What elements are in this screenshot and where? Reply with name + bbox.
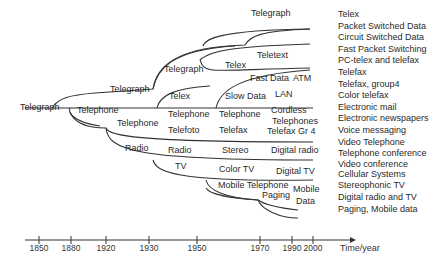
branch-label-telefax: Telefax xyxy=(219,125,248,135)
branch-label-slow-data: Slow Data xyxy=(225,91,266,101)
service-item: Voice messaging xyxy=(338,125,429,137)
branch-label-stereo: Stereo xyxy=(222,145,249,155)
branch-label-atm: ATM xyxy=(293,73,311,83)
branch-label-telefoto: Telefoto xyxy=(168,125,200,135)
service-item: Packet Switched Data xyxy=(338,21,429,33)
branch-label-tv: TV xyxy=(175,161,187,171)
branch-label-digital-radio: Digital radio xyxy=(271,145,319,155)
branch-label-telex-1950: Telex xyxy=(169,91,190,101)
branch-label-cordless: Cordless xyxy=(271,105,307,115)
branch-label-telephone-1970: Telephone xyxy=(219,109,261,119)
service-item: Circuit Switched Data xyxy=(338,32,429,44)
branch-label-lan: LAN xyxy=(275,89,293,99)
service-item: Paging, Mobile data xyxy=(338,204,429,216)
branch-label-telephone-1920: Telephone xyxy=(117,118,159,128)
branch-label-telefax-gr4: Telefax Gr 4 xyxy=(267,126,316,136)
branch-label-telegraph-1930: Telegraph xyxy=(164,64,204,74)
branch-label-radio-1920: Radio xyxy=(125,143,149,153)
tick-label: 2000 xyxy=(304,243,323,253)
service-item: Fast Packet Switching xyxy=(338,44,429,56)
branch-label-mobile-telephone: Mobile Telephone xyxy=(218,180,288,190)
branch-label-telephones: Telephones xyxy=(272,116,318,126)
service-item: Telephone conference xyxy=(338,148,429,160)
tick-label: 1990 xyxy=(283,243,302,253)
branch-label-color-tv: Color TV xyxy=(219,164,254,174)
tick-label: 1970 xyxy=(251,243,270,253)
branch-label-paging: Paging xyxy=(262,190,290,200)
service-item: PC-telex and telefax xyxy=(338,55,429,67)
branch-label-telex-1970: Telex xyxy=(225,60,246,70)
service-item: Color telefax xyxy=(338,90,429,102)
service-item: Electronic mail xyxy=(338,102,429,114)
service-item: Digital radio and TV xyxy=(338,192,429,204)
service-item: Cellular Systems xyxy=(338,169,429,181)
tick-label: 1950 xyxy=(188,243,207,253)
service-item: Telefax xyxy=(338,67,429,79)
root-label: Telegraph xyxy=(20,102,60,112)
service-item: Telex xyxy=(338,9,429,21)
service-item: Telefax, group4 xyxy=(338,79,429,91)
service-item: Electronic newspapers xyxy=(338,113,429,125)
axis-title: Time/year xyxy=(340,243,380,253)
branch-label-telephone-1950: Telephone xyxy=(168,109,210,119)
branch-label-data: Data xyxy=(296,196,315,206)
service-item: Video Telephone xyxy=(338,137,429,149)
branch-label-teletext: Teletext xyxy=(257,50,288,60)
service-item: Video conference xyxy=(338,160,429,169)
branch-label-telegraph-1970: Telegraph xyxy=(251,8,291,18)
service-item: Stereophonic TV xyxy=(338,180,429,192)
tick-label: 1850 xyxy=(30,243,49,253)
service-list: Telex Packet Switched Data Circuit Switc… xyxy=(338,9,429,215)
tick-label: 1930 xyxy=(140,243,159,253)
tick-label: 1920 xyxy=(97,243,116,253)
tick-label: 1880 xyxy=(62,243,81,253)
branch-label-radio-1950: Radio xyxy=(168,145,192,155)
branch-label-digital-tv: Digital TV xyxy=(276,166,315,176)
branch-label-telephone-1880: Telephone xyxy=(77,105,119,115)
branch-label-mobile: Mobile xyxy=(293,184,320,194)
branch-label-fast-data: Fast Data xyxy=(250,73,289,83)
branch-label-telegraph-1920: Telegraph xyxy=(110,84,150,94)
